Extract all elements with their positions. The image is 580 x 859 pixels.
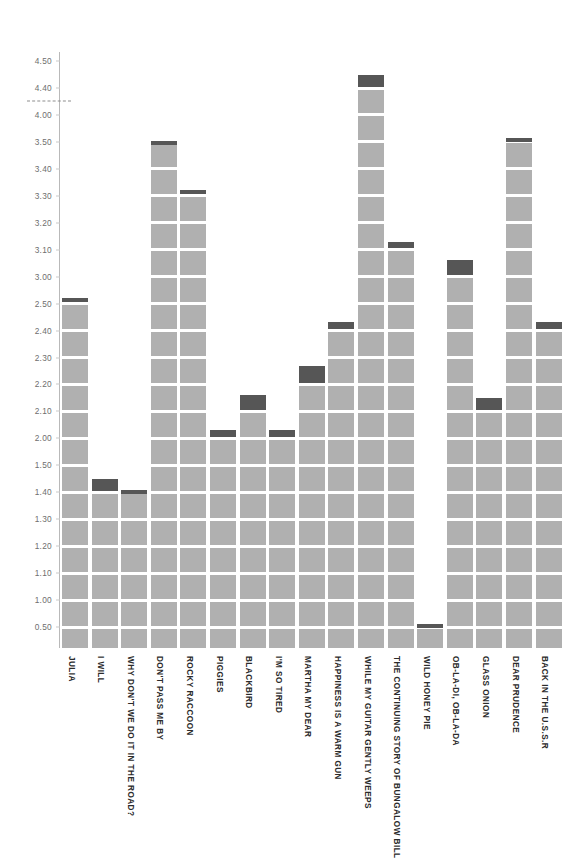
x-axis-category-label: HAPPINESS IS A WARM GUN — [332, 656, 342, 780]
bar-cap — [210, 430, 236, 437]
bar[interactable] — [476, 398, 502, 648]
bar-segment-line — [62, 545, 88, 548]
bar-segment-line — [151, 329, 177, 332]
bar-segment-line — [447, 275, 473, 278]
bar-segment-line — [476, 464, 502, 467]
bar-segment-line — [210, 437, 236, 440]
bar-segment-line — [447, 302, 473, 305]
bar-segment-line — [269, 491, 295, 494]
bar[interactable] — [151, 141, 177, 648]
bar[interactable] — [447, 260, 473, 648]
bar-segment-line — [269, 437, 295, 440]
bar-segment-line — [388, 518, 414, 521]
bar-segment-lines — [269, 430, 295, 648]
bar-segment-line — [476, 437, 502, 440]
x-axis-category-label: GLASS ONION — [480, 656, 490, 718]
bar-segment-lines — [476, 398, 502, 648]
x-axis-category-label: BLACKBIRD — [244, 656, 254, 709]
x-axis-category-label: THE CONTINUING STORY OF BUNGALOW BILL — [392, 656, 402, 859]
bar-segment-line — [299, 545, 325, 548]
bar-segment-line — [447, 464, 473, 467]
bar-segment-line — [358, 626, 384, 629]
bar-segment-line — [328, 572, 354, 575]
bar-segment-line — [328, 329, 354, 332]
bar-segment-line — [180, 572, 206, 575]
x-axis-category-label: MARTHA MY DEAR — [303, 656, 313, 737]
bar[interactable] — [210, 430, 236, 648]
bar-segment-line — [358, 302, 384, 305]
bar[interactable] — [121, 490, 147, 648]
bar[interactable] — [328, 322, 354, 648]
bar-segment-line — [62, 383, 88, 386]
bar-segment-line — [180, 491, 206, 494]
bar-segment-line — [180, 626, 206, 629]
bar-cap — [417, 624, 443, 628]
bar-cap — [476, 398, 502, 410]
bar-segment-line — [180, 437, 206, 440]
bar-segment-line — [151, 302, 177, 305]
bar[interactable] — [180, 190, 206, 648]
bar-segment-line — [358, 275, 384, 278]
bar-segment-line — [388, 329, 414, 332]
bar-segment-line — [358, 545, 384, 548]
bar-segment-line — [62, 572, 88, 575]
bar[interactable] — [536, 322, 562, 648]
bar-segment-line — [151, 383, 177, 386]
bar-cap — [92, 479, 118, 491]
bar[interactable] — [299, 366, 325, 648]
bar[interactable] — [358, 75, 384, 648]
bar-segment-line — [62, 329, 88, 332]
bar-segment-line — [506, 167, 532, 170]
bar-segment-lines — [328, 322, 354, 648]
bar[interactable] — [388, 242, 414, 648]
bar-segment-line — [388, 599, 414, 602]
bar-segment-line — [447, 545, 473, 548]
bar-segment-line — [388, 572, 414, 575]
bar-segment-line — [180, 518, 206, 521]
bar-segment-line — [151, 491, 177, 494]
bar-segment-line — [240, 518, 266, 521]
bar-segment-line — [447, 410, 473, 413]
bar-cap — [388, 242, 414, 249]
x-axis-category-label: WHILE MY GUITAR GENTLY WEEPS — [362, 656, 372, 809]
bar-segment-line — [210, 545, 236, 548]
bar-segment-line — [506, 383, 532, 386]
x-axis-category-label: PIGGIES — [214, 656, 224, 693]
bar-segment-line — [506, 491, 532, 494]
bar-segment-line — [536, 626, 562, 629]
bar-segment-lines — [299, 366, 325, 648]
bar-segment-line — [121, 599, 147, 602]
bar[interactable] — [62, 298, 88, 648]
bar-segment-line — [180, 302, 206, 305]
bar-segment-line — [476, 410, 502, 413]
bar-segment-line — [506, 626, 532, 629]
bar-segment-line — [476, 599, 502, 602]
bar-segment-line — [447, 626, 473, 629]
bar[interactable] — [92, 479, 118, 648]
bar-segment-line — [506, 437, 532, 440]
bar-segment-line — [328, 491, 354, 494]
bar-segment-line — [536, 599, 562, 602]
bar-segment-line — [299, 572, 325, 575]
bar-segment-line — [62, 518, 88, 521]
bar-segment-line — [240, 599, 266, 602]
bar[interactable] — [506, 138, 532, 648]
bar-segment-line — [180, 383, 206, 386]
bar-segment-line — [180, 194, 206, 197]
bar-segment-lines — [358, 75, 384, 648]
bar-segment-lines — [210, 430, 236, 648]
bar-segment-line — [269, 626, 295, 629]
bar[interactable] — [417, 624, 443, 648]
bar-segment-line — [536, 518, 562, 521]
bar-segment-line — [240, 572, 266, 575]
bar[interactable] — [269, 430, 295, 648]
bar-cap — [328, 322, 354, 329]
bar-segment-line — [269, 464, 295, 467]
bar-segment-line — [447, 572, 473, 575]
bar[interactable] — [240, 395, 266, 648]
bar-segment-line — [388, 275, 414, 278]
bar-segment-line — [447, 329, 473, 332]
bar-segment-line — [388, 248, 414, 251]
bar-segment-line — [180, 464, 206, 467]
